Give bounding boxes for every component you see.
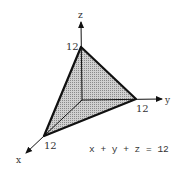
y-axis-label: y	[164, 95, 171, 105]
x-axis-label: x	[16, 155, 21, 165]
y-intercept-label: 12	[136, 103, 149, 114]
equation-label: x + y + z = 12	[89, 144, 169, 155]
z-axis-label: z	[78, 10, 83, 20]
z-intercept-label: 12	[66, 41, 79, 52]
plane-diagram: z y x 12 12 12 x + y + z = 12	[0, 0, 181, 173]
x-intercept-label: 12	[44, 140, 57, 151]
